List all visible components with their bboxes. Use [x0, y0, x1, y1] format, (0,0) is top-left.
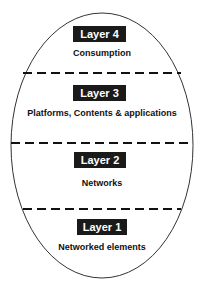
layer-4-label: Layer 4 [73, 26, 126, 42]
layer-1-description: Networked elements [0, 242, 204, 253]
layer-2-description: Networks [0, 178, 204, 189]
layer-4-description: Consumption [0, 48, 204, 59]
layer-2-label: Layer 2 [74, 152, 126, 168]
layer-3-description: Platforms, Contents & applications [0, 108, 204, 119]
layer-3-label: Layer 3 [73, 85, 126, 101]
layer-1-label: Layer 1 [77, 219, 127, 235]
